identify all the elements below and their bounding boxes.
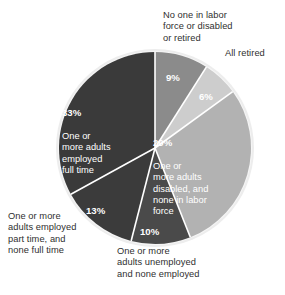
slice-label-no-one-in-labor-force: No one in labor force or disabled or ret… — [163, 10, 233, 44]
slice-value-29-percent: 29% One or more adults disabled, and non… — [153, 126, 208, 229]
slice-percent-13: 13% — [86, 205, 105, 217]
slice-text-33: One or more adults employed full time — [62, 131, 111, 177]
slice-label-part-time: One or more adults employed part time, a… — [8, 211, 76, 257]
slice-label-all-retired: All retired — [225, 48, 265, 59]
slice-value-10-percent: 10% — [140, 215, 159, 250]
slice-value-9-percent: 9% — [166, 61, 180, 96]
slice-value-33-percent: 33% One or more adults employed full tim… — [62, 96, 111, 188]
slice-percent-10: 10% — [140, 226, 159, 238]
slice-text-29: One or more adults disabled, and none in… — [153, 161, 208, 218]
slice-label-unemployed: One or more adults unemployed and none e… — [117, 246, 200, 280]
slice-percent-33: 33% — [62, 107, 111, 119]
slice-percent-9: 9% — [166, 72, 180, 84]
slice-value-6-percent: 6% — [199, 80, 213, 115]
pie-chart-figure: No one in labor force or disabled or ret… — [0, 0, 285, 295]
slice-percent-29: 29% — [153, 137, 208, 149]
slice-percent-6: 6% — [199, 91, 213, 103]
slice-value-13-percent: 13% — [86, 194, 105, 229]
